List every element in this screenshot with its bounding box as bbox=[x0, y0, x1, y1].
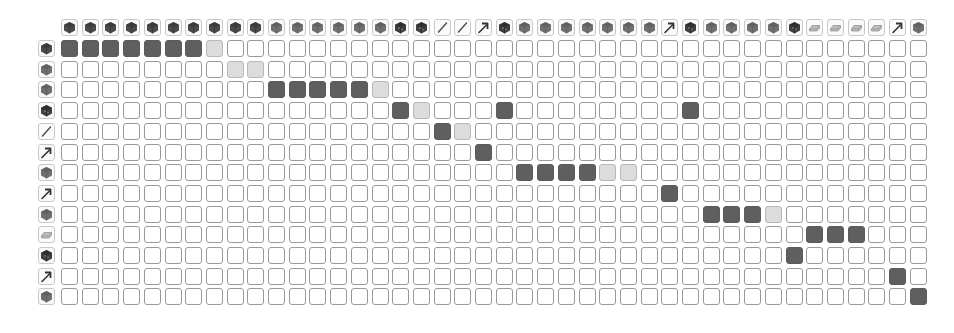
grid-cell-empty bbox=[599, 81, 616, 98]
cube-medium-icon bbox=[516, 19, 533, 36]
grid-cell-empty bbox=[475, 40, 492, 57]
grid-cell-empty bbox=[82, 144, 99, 161]
grid-cell-empty bbox=[806, 123, 823, 140]
grid-cell-empty bbox=[185, 144, 202, 161]
grid-cell-empty bbox=[123, 61, 140, 78]
grid-cell-empty bbox=[351, 226, 368, 243]
grid-cell-empty bbox=[579, 226, 596, 243]
cube-medium-icon bbox=[351, 19, 368, 36]
grid-cell-empty bbox=[434, 102, 451, 119]
cube-bumpy-icon bbox=[392, 19, 409, 36]
grid-cell-empty bbox=[703, 268, 720, 285]
grid-cell-empty bbox=[144, 102, 161, 119]
cube-medium-icon bbox=[579, 19, 596, 36]
grid-cell-empty bbox=[765, 144, 782, 161]
grid-cell-empty bbox=[620, 288, 637, 305]
grid-cell-empty bbox=[744, 102, 761, 119]
grid-cell-empty bbox=[827, 164, 844, 181]
grid-cell-empty bbox=[165, 206, 182, 223]
grid-cell-empty bbox=[165, 102, 182, 119]
grid-cell-empty bbox=[392, 206, 409, 223]
grid-cell-empty bbox=[765, 123, 782, 140]
grid-cell-empty bbox=[703, 40, 720, 57]
grid-cell-empty bbox=[641, 61, 658, 78]
grid-cell-empty bbox=[289, 247, 306, 264]
grid-cell-empty bbox=[372, 123, 389, 140]
grid-cell-empty bbox=[289, 288, 306, 305]
grid-cell-empty bbox=[723, 81, 740, 98]
grid-cell-dark bbox=[806, 226, 823, 243]
grid-cell-empty bbox=[165, 123, 182, 140]
grid-cell-light bbox=[620, 164, 637, 181]
cube-medium-icon bbox=[330, 19, 347, 36]
grid-cell-empty bbox=[661, 61, 678, 78]
grid-cell-empty bbox=[723, 144, 740, 161]
grid-cell-empty bbox=[868, 268, 885, 285]
grid-cell-empty bbox=[351, 123, 368, 140]
grid-cell-empty bbox=[558, 226, 575, 243]
grid-cell-empty bbox=[206, 247, 223, 264]
grid-cell-empty bbox=[372, 268, 389, 285]
grid-cell-empty bbox=[641, 164, 658, 181]
grid-cell-empty bbox=[537, 144, 554, 161]
grid-cell-empty bbox=[910, 102, 927, 119]
grid-cell-empty bbox=[723, 268, 740, 285]
grid-cell-empty bbox=[558, 81, 575, 98]
grid-cell-empty bbox=[413, 123, 430, 140]
grid-cell-empty bbox=[620, 81, 637, 98]
grid-cell-empty bbox=[206, 61, 223, 78]
grid-cell-empty bbox=[537, 288, 554, 305]
grid-cell-empty bbox=[123, 268, 140, 285]
grid-cell-empty bbox=[413, 61, 430, 78]
cube-medium-icon bbox=[372, 19, 389, 36]
grid-cell-empty bbox=[537, 40, 554, 57]
cube-dark-icon bbox=[185, 19, 202, 36]
grid-cell-empty bbox=[475, 102, 492, 119]
grid-cell-empty bbox=[454, 144, 471, 161]
grid-cell-empty bbox=[123, 164, 140, 181]
grid-cell-light bbox=[227, 61, 244, 78]
grid-cell-empty bbox=[848, 123, 865, 140]
grid-cell-empty bbox=[247, 185, 264, 202]
grid-cell-empty bbox=[661, 268, 678, 285]
grid-cell-empty bbox=[661, 123, 678, 140]
grid-cell-empty bbox=[496, 288, 513, 305]
grid-cell-empty bbox=[765, 40, 782, 57]
grid-cell-empty bbox=[434, 288, 451, 305]
grid-cell-empty bbox=[475, 226, 492, 243]
pickaxe-icon bbox=[475, 19, 492, 36]
grid-cell-empty bbox=[516, 247, 533, 264]
grid-cell-empty bbox=[475, 268, 492, 285]
grid-cell-empty bbox=[537, 226, 554, 243]
grid-cell-empty bbox=[661, 226, 678, 243]
grid-cell-empty bbox=[227, 102, 244, 119]
grid-cell-empty bbox=[185, 185, 202, 202]
grid-cell-empty bbox=[744, 226, 761, 243]
grid-cell-empty bbox=[599, 144, 616, 161]
grid-cell-empty bbox=[185, 247, 202, 264]
grid-cell-empty bbox=[289, 206, 306, 223]
grid-cell-empty bbox=[827, 61, 844, 78]
grid-cell-empty bbox=[309, 206, 326, 223]
grid-cell-empty bbox=[786, 268, 803, 285]
grid-cell-empty bbox=[599, 247, 616, 264]
grid-cell-empty bbox=[61, 81, 78, 98]
grid-cell-dark bbox=[434, 123, 451, 140]
cube-dark-icon bbox=[206, 19, 223, 36]
grid-cell-empty bbox=[102, 268, 119, 285]
grid-cell-empty bbox=[806, 247, 823, 264]
grid-cell-dark bbox=[82, 40, 99, 57]
grid-cell-empty bbox=[682, 288, 699, 305]
grid-cell-empty bbox=[268, 247, 285, 264]
grid-cell-empty bbox=[309, 102, 326, 119]
grid-cell-empty bbox=[868, 123, 885, 140]
grid-cell-dark bbox=[848, 226, 865, 243]
grid-cell-empty bbox=[806, 164, 823, 181]
grid-cell-empty bbox=[144, 206, 161, 223]
grid-cell-empty bbox=[185, 206, 202, 223]
grid-cell-empty bbox=[516, 206, 533, 223]
grid-cell-empty bbox=[620, 102, 637, 119]
grid-cell-empty bbox=[558, 206, 575, 223]
cube-bumpy-icon bbox=[413, 19, 430, 36]
grid-cell-empty bbox=[889, 102, 906, 119]
